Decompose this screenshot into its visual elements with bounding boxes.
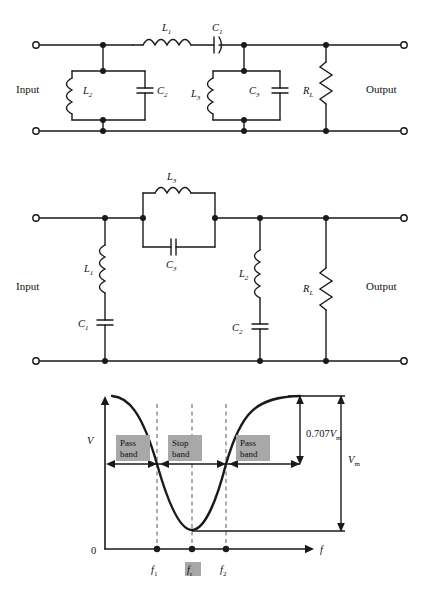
junction-dot: [323, 42, 329, 48]
input-terminal-bottom-circle: [33, 358, 39, 364]
junction-dot: [241, 42, 247, 48]
output-terminal-top-circle: [401, 215, 407, 221]
junction-dot: [100, 42, 106, 48]
junction-dot: [323, 128, 329, 134]
chart-origin-label: 0: [91, 545, 96, 556]
junction-dot: [100, 117, 106, 123]
input-terminal-bottom-circle: [33, 128, 39, 134]
junction-dot: [100, 68, 106, 74]
junction-dot: [241, 68, 247, 74]
circuit2-output-label: Output: [366, 280, 397, 292]
junction-dot: [102, 215, 108, 221]
junction-dot: [241, 117, 247, 123]
tick-dot-f1: [154, 546, 160, 552]
figure-container: Input Output L1 C1 L2 C2 L3 C3 RL: [0, 0, 422, 600]
input-terminal-top-circle: [33, 42, 39, 48]
stop-band-line1: Stop: [172, 438, 189, 448]
circuit1-output-label: Output: [366, 83, 397, 95]
junction-dot: [212, 215, 218, 221]
pass-band-right-line1: Pass: [240, 438, 257, 448]
junction-dot: [323, 215, 329, 221]
junction-dot: [257, 215, 263, 221]
stop-band-line2: band: [172, 449, 190, 459]
figure-svg: Input Output L1 C1 L2 C2 L3 C3 RL: [0, 0, 422, 600]
junction-dot: [140, 215, 146, 221]
pass-band-left-line2: band: [120, 449, 138, 459]
junction-dot: [323, 358, 329, 364]
output-terminal-bottom-circle: [401, 128, 407, 134]
tick-dot-f2: [223, 546, 229, 552]
pass-band-right-line2: band: [240, 449, 258, 459]
circuit2-input-label: Input: [16, 280, 39, 292]
input-terminal-top-circle: [33, 215, 39, 221]
junction-dot: [257, 358, 263, 364]
junction-dot: [102, 358, 108, 364]
circuit1-input-label: Input: [16, 83, 39, 95]
tick-dot-fr: [189, 546, 195, 552]
pass-band-left-line1: Pass: [120, 438, 137, 448]
junction-dot: [241, 128, 247, 134]
junction-dot: [100, 128, 106, 134]
output-terminal-top-circle: [401, 42, 407, 48]
output-terminal-bottom-circle: [401, 358, 407, 364]
